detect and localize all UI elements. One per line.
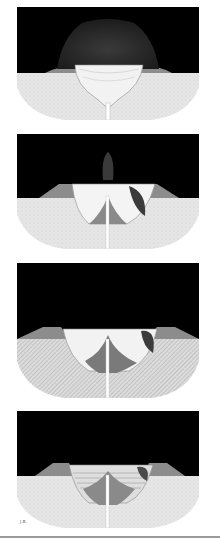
panel-3-caldera-cone <box>17 263 199 398</box>
panel-4-caldera-lake <box>17 411 199 528</box>
panel-2-collapse <box>17 134 199 249</box>
panel-4-illustration <box>17 411 199 528</box>
panel-2-illustration <box>17 134 199 249</box>
bottom-divider <box>0 536 220 538</box>
artist-signature: J.B. <box>20 519 27 524</box>
panel-1-illustration <box>17 7 199 120</box>
panel-3-illustration <box>17 263 199 398</box>
panel-1-eruption <box>17 7 199 120</box>
